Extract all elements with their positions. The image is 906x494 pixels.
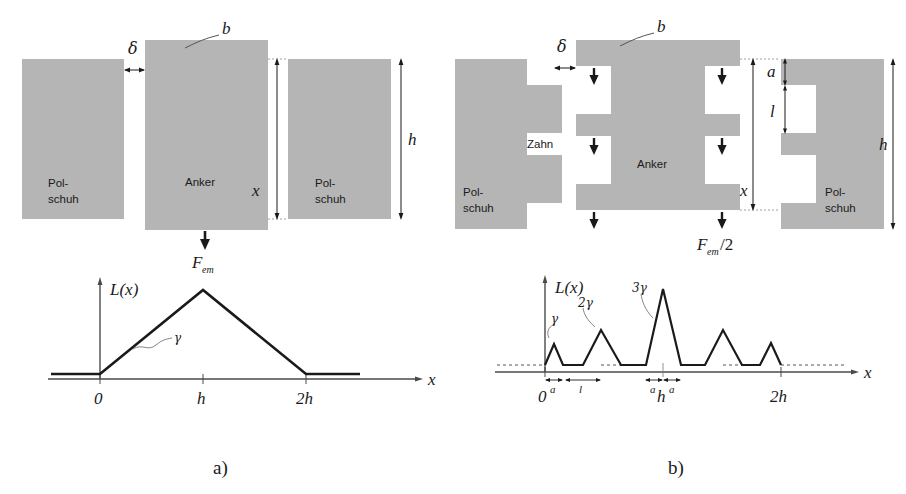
panel-b-armature-label: Anker: [637, 158, 667, 170]
panel-b-width-label: b: [657, 17, 666, 36]
panel-b-chart-ticklabel-0: 0: [538, 387, 547, 406]
panel-b-chart-dim-a1-label: a: [550, 383, 556, 395]
panel-b-left-pole-shoe-label-line1: Pol-: [463, 186, 484, 198]
panel-a-force-subscript: em: [202, 264, 214, 275]
panel-a-travel-label: x: [251, 181, 260, 200]
panel-b-chart-dim-a3-label: a: [669, 383, 675, 395]
panel-b-tooth-label: Zahn: [527, 138, 553, 150]
panel-a-chart-ylabel: L(x): [109, 280, 139, 299]
panel-b-chart-xlabel: x: [863, 363, 872, 382]
panel-a-height-label: h: [408, 130, 417, 149]
panel-a-armature: [145, 40, 268, 230]
panel-b-travel-label: x: [739, 181, 748, 200]
panel-b-force-subscript: em: [707, 246, 719, 257]
panel-b-chart-ticklabel-h: h: [657, 387, 666, 406]
panel-b-caption: b): [668, 457, 684, 479]
panel-a-chart-ticklabel-2h: 2h: [296, 389, 313, 408]
panel-b-force-suffix: /2: [720, 235, 733, 254]
panel-a-left-pole-shoe-label-line1: Pol-: [48, 177, 69, 189]
panel-b-chart-dim-a2-label: a: [650, 383, 656, 395]
panel-b-right-pole-shoe-label-line1: Pol-: [825, 186, 846, 198]
panel-b-chart-gamma3-label: 3γ: [632, 281, 648, 295]
panel-a-armature-label: Anker: [185, 176, 215, 188]
panel-a-chart-xlabel: x: [427, 370, 436, 389]
panel-a-chart-ticklabel-h: h: [197, 389, 206, 408]
panel-b-height-label: h: [879, 135, 888, 154]
panel-a-left-pole-shoe-label-line2: schuh: [48, 193, 79, 205]
panel-b-chart-gamma1-label: γ: [551, 312, 559, 326]
panel-b-chart-ylabel: L(x): [554, 278, 584, 297]
panel-a-width-label: b: [222, 19, 231, 38]
panel-a-caption: a): [213, 457, 228, 479]
panel-b-armature: [576, 40, 740, 210]
panel-b-chart-ticklabel-2h: 2h: [770, 387, 787, 406]
technical-figure: Pol- schuh Anker Pol- schuh b δ x: [0, 0, 906, 494]
panel-b-chart-gamma2-label: 2γ: [577, 296, 594, 310]
panel-b-left-pole-shoe-label-line2: schuh: [463, 202, 494, 214]
panel-b-right-pole-shoe-label-line2: schuh: [825, 202, 856, 214]
figure-root: Pol- schuh Anker Pol- schuh b δ x: [0, 0, 906, 494]
panel-a-right-pole-shoe-label-line1: Pol-: [315, 177, 336, 189]
panel-a-gap-label: δ: [128, 39, 138, 58]
panel-a-right-pole-shoe-label-line2: schuh: [315, 193, 346, 205]
panel-b-slot-height-label: l: [770, 102, 775, 121]
panel-b-tooth-height-label: a: [767, 62, 776, 81]
panel-a-chart-slope-label: γ: [174, 331, 182, 345]
panel-a-chart-ticklabel-0: 0: [94, 389, 103, 408]
panel-b-gap-label: δ: [557, 37, 567, 56]
panel-b-chart-dim-l-label: l: [579, 383, 582, 395]
